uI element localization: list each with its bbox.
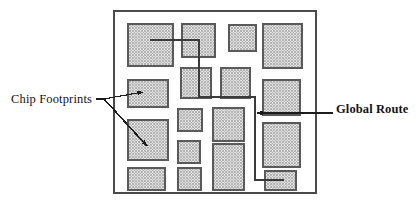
chip-footprint	[128, 120, 168, 160]
chip-footprint	[263, 24, 302, 68]
global-route-label: Global Route	[336, 103, 408, 116]
chip-footprints-label: Chip Footprints	[11, 93, 92, 106]
chip-footprint	[128, 168, 165, 190]
chip-footprint	[263, 80, 300, 115]
chip-footprint	[221, 68, 250, 98]
chip-footprint	[181, 68, 211, 98]
chip-footprint	[178, 109, 202, 131]
chip-footprint	[213, 108, 244, 141]
chip-footprint	[178, 168, 201, 190]
chip-footprint	[229, 25, 256, 51]
chip-footprint	[213, 144, 244, 190]
chip-footprint	[263, 123, 300, 167]
chip-footprint	[178, 141, 200, 163]
chip-footprint	[128, 24, 173, 66]
